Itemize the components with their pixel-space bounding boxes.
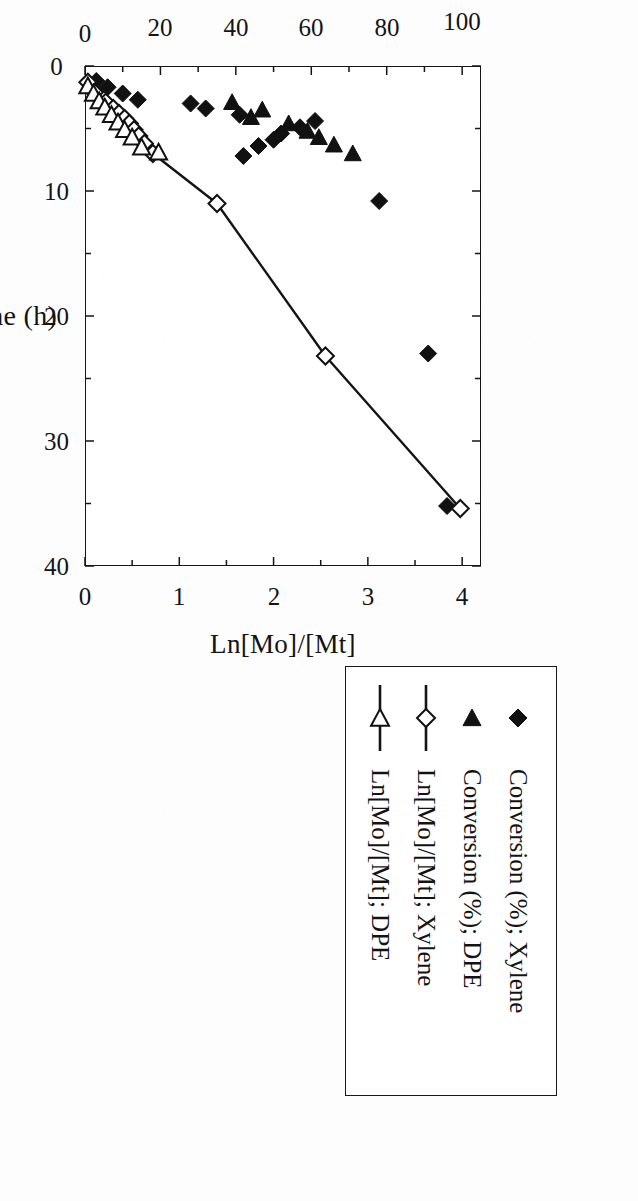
y-right-tick-label: 2 (267, 583, 280, 608)
y-left-tick-label: 100 (443, 8, 481, 33)
y-right-tick-label: 0 (79, 583, 92, 608)
y-axis-right-title: Ln[Mo]/[Mt] (210, 628, 356, 659)
legend-marker-open-triangle-icon (365, 681, 395, 755)
y-left-tick-label: 0 (79, 21, 92, 46)
legend-item-label: Conversion (%); Xylene (504, 769, 532, 1013)
x-tick-label: 0 (50, 53, 63, 78)
y-axis-right-tick-labels: 01234 (85, 566, 481, 630)
legend-item-label: Conversion (%); DPE (458, 769, 486, 988)
x-tick-label: 40 (44, 553, 69, 578)
y-left-tick-label: 60 (299, 15, 324, 40)
y-left-tick-label: 40 (223, 15, 248, 40)
y-right-tick-label: 4 (456, 583, 469, 608)
y-left-tick-label: 20 (148, 15, 173, 40)
legend-item: Conversion (%); Xylene (496, 681, 540, 1085)
y-right-tick-label: 1 (173, 583, 186, 608)
figure-rotated-container: 010203040 Time (h) 020406080100 Conversi… (33, 66, 593, 1136)
plot-area (85, 66, 481, 566)
y-left-tick-label: 80 (374, 15, 399, 40)
x-axis-title: Time (h) (0, 300, 57, 332)
legend-item: Conversion (%); DPE (450, 681, 494, 1085)
y-axis-left-tick-labels: 020406080100 (85, 0, 481, 64)
scanned-page: 010203040 Time (h) 020406080100 Conversi… (0, 0, 638, 1201)
legend-box: Conversion (%); XyleneConversion (%); DP… (345, 666, 557, 1096)
legend-marker-filled-diamond-icon (503, 681, 533, 755)
legend-item-label: Ln[Mo]/[Mt]; DPE (366, 769, 394, 961)
legend-item-label: Ln[Mo]/[Mt]; Xylene (412, 769, 440, 986)
legend-item: Ln[Mo]/[Mt]; Xylene (404, 681, 448, 1085)
plot-canvas (85, 66, 481, 566)
legend-marker-filled-triangle-icon (457, 681, 487, 755)
x-tick-label: 10 (44, 178, 69, 203)
y-right-tick-label: 3 (362, 583, 375, 608)
x-tick-label: 30 (44, 428, 69, 453)
legend-marker-open-diamond-icon (411, 681, 441, 755)
legend-item: Ln[Mo]/[Mt]; DPE (358, 681, 402, 1085)
